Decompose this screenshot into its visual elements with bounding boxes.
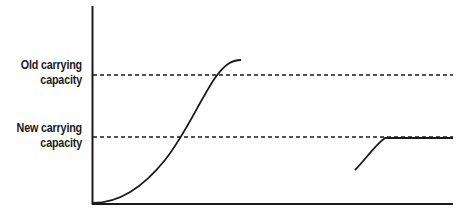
growth-curve bbox=[93, 60, 241, 203]
new-capacity-curve bbox=[355, 138, 453, 170]
carrying-capacity-diagram bbox=[0, 0, 464, 210]
